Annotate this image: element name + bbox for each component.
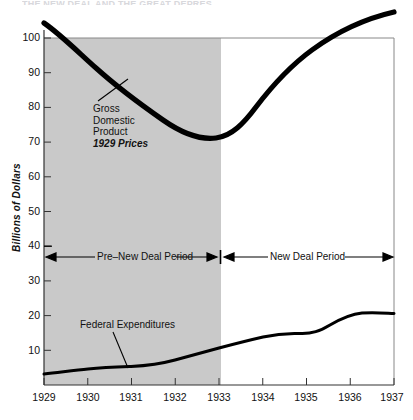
x-tick-label-1937: 1937 — [372, 392, 412, 403]
pre-new-deal-shaded-region — [44, 38, 221, 385]
y-tick-label-70: 70 — [14, 136, 40, 147]
y-tick-label-30: 30 — [14, 275, 40, 286]
y-tick-label-40: 40 — [14, 240, 40, 251]
new-deal-period-label: New Deal Period — [270, 252, 345, 262]
y-tick-label-90: 90 — [14, 67, 40, 78]
x-tick-label-1929: 1929 — [24, 392, 64, 403]
y-tick-label-80: 80 — [14, 101, 40, 112]
x-tick-label-1930: 1930 — [68, 392, 108, 403]
x-tick-label-1933: 1933 — [199, 392, 239, 403]
x-tick-label-1935: 1935 — [286, 392, 326, 403]
chart-svg — [0, 0, 413, 420]
gdp-annotation: Gross Domestic Product 1929 Prices — [93, 103, 163, 149]
x-tick-label-1932: 1932 — [155, 392, 195, 403]
y-tick-label-60: 60 — [14, 171, 40, 182]
x-tick-label-1931: 1931 — [111, 392, 151, 403]
y-tick-label-50: 50 — [14, 206, 40, 217]
y-tick-label-100: 100 — [14, 32, 40, 43]
gdp-annotation-line2: Domestic — [93, 115, 163, 127]
federal-expenditures-annotation: Federal Expenditures — [80, 320, 175, 330]
y-tick-label-20: 20 — [14, 310, 40, 321]
figure-container: THE NEW DEAL AND THE GREAT DEPRESSION — [0, 0, 413, 420]
x-tick-label-1934: 1934 — [243, 392, 283, 403]
gdp-annotation-prices: 1929 Prices — [93, 138, 163, 150]
gdp-annotation-line1: Gross — [93, 103, 163, 115]
y-tick-label-10: 10 — [14, 345, 40, 356]
gdp-annotation-line3: Product — [93, 126, 163, 138]
pre-new-deal-period-label: Pre–New Deal Period — [97, 252, 193, 262]
x-tick-label-1936: 1936 — [330, 392, 370, 403]
